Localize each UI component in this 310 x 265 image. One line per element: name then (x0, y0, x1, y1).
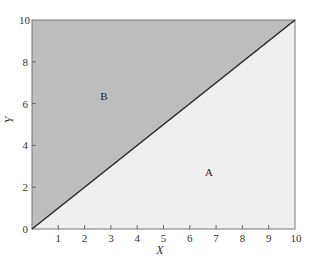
svg-text:2: 2 (23, 181, 29, 193)
svg-text:0: 0 (23, 223, 29, 235)
svg-text:3: 3 (108, 232, 114, 244)
svg-text:1: 1 (56, 232, 62, 244)
svg-text:10: 10 (19, 14, 31, 26)
svg-text:9: 9 (266, 232, 272, 244)
svg-text:4: 4 (134, 232, 140, 244)
svg-text:2: 2 (82, 232, 88, 244)
region-b-label: B (100, 90, 107, 102)
svg-text:10: 10 (291, 232, 303, 244)
x-axis-label: X (155, 243, 164, 257)
svg-text:6: 6 (187, 232, 193, 244)
x-tick-labels: 1 2 3 4 5 6 7 8 9 10 (56, 232, 302, 244)
svg-text:6: 6 (23, 98, 29, 110)
y-tick-labels: 0 2 4 6 8 10 (19, 14, 31, 235)
chart: 1 2 3 4 5 6 7 8 9 10 0 2 4 6 8 10 X Y B … (0, 0, 310, 265)
region-a-label: A (205, 166, 213, 178)
svg-text:8: 8 (240, 232, 246, 244)
svg-text:4: 4 (23, 139, 29, 151)
svg-text:8: 8 (23, 56, 29, 68)
svg-text:7: 7 (213, 232, 219, 244)
y-axis-label: Y (2, 115, 16, 123)
